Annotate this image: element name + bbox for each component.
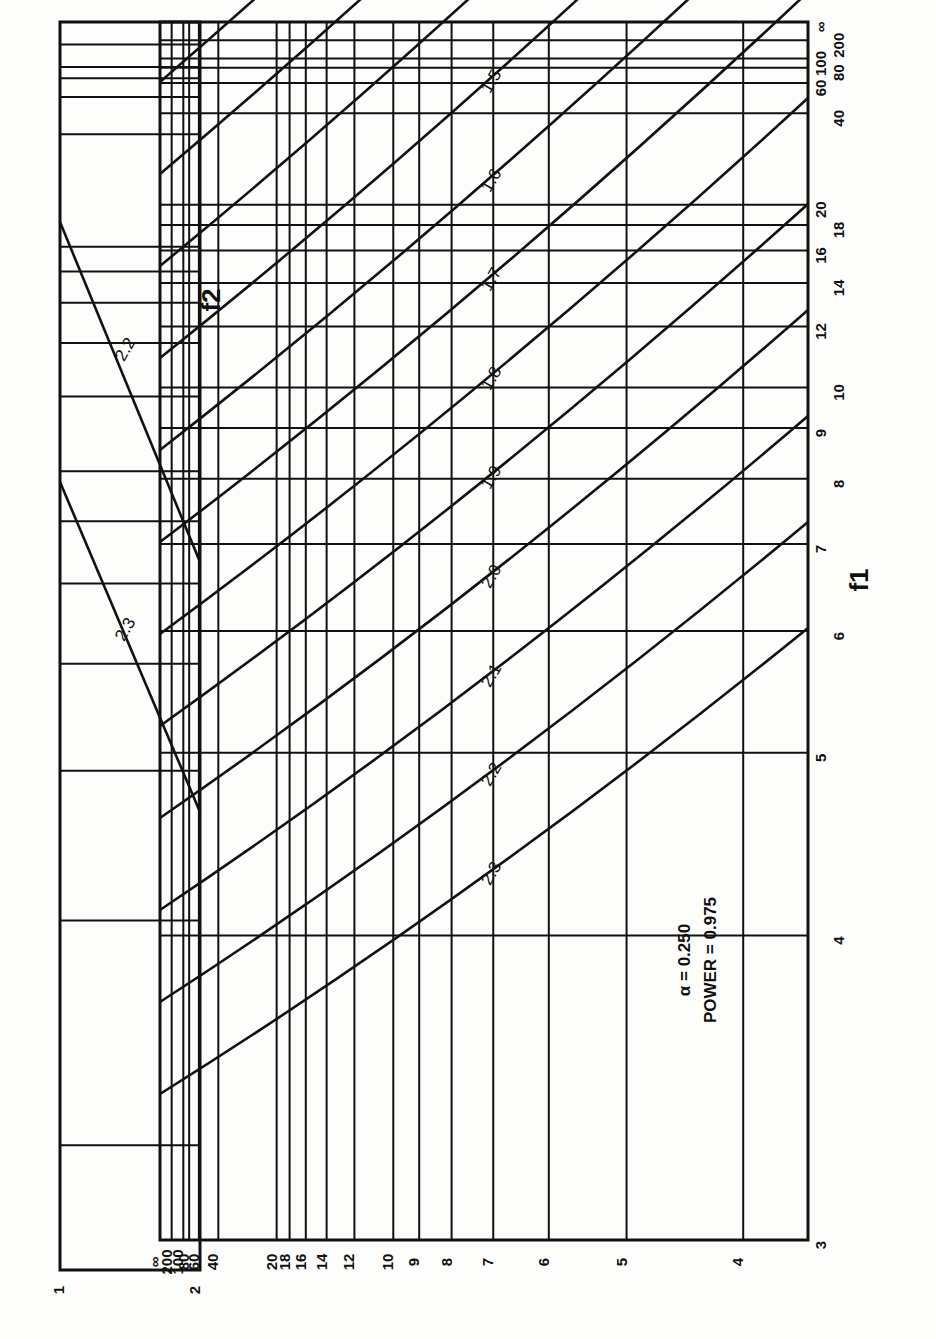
power-chart: 3456789101214161820406080100200∞45678910… [0,0,936,1339]
f2-tick-label: ∞ [146,1256,163,1267]
f2-tick-label: 10 [379,1254,396,1271]
f1-tick-label: 100 [812,51,829,76]
f1-tick-label: 5 [812,754,829,762]
f1-tick-label: 10 [830,384,847,401]
phi-curve-2.1 [160,416,808,910]
f1-tick-label: 80 [830,64,847,81]
inset-curve-2.2 [60,222,200,562]
phi-curve-2.3 [160,628,808,1094]
f1-tick-label: 16 [812,247,829,264]
f1-tick-label: 18 [830,222,847,239]
f1-tick-label: 20 [812,201,829,218]
f1-tick-label: 9 [812,429,829,437]
legend-alpha: α = 0.250 [675,924,694,996]
f1-tick-label: 6 [830,632,847,640]
f1-tick-label: 4 [830,936,847,945]
f2-tick-label: 7 [479,1258,496,1266]
f1-tick-label: 3 [812,1241,829,1249]
inset-f1-tick-label: 1 [50,1286,67,1294]
grid-lines [160,22,808,1240]
f2-tick-label: 40 [204,1254,221,1271]
inset-f1-tick-label: 2 [186,1286,203,1294]
f2-tick-label: 20 [263,1254,280,1271]
f1-axis-label: f1 [844,568,874,591]
f2-tick-label: 4 [729,1257,746,1266]
f1-tick-label: 200 [830,33,847,58]
f1-tick-label: 40 [830,110,847,127]
f2-tick-label: 16 [292,1254,309,1271]
f2-tick-label: 8 [438,1258,455,1266]
legend-power: POWER = 0.975 [701,897,720,1023]
f1-tick-label: 7 [812,545,829,553]
f2-tick-label: 12 [340,1254,357,1271]
f2-tick-label: 9 [405,1258,422,1266]
f1-tick-label: ∞ [812,21,829,32]
f2-tick-label: 6 [535,1258,552,1266]
inset-curve-2.3 [60,482,200,812]
f1-tick-label: 8 [830,480,847,488]
f1-tick-label: 12 [812,323,829,340]
inset-curve-label: 2.3 [111,614,139,644]
f2-tick-label: 5 [613,1258,630,1266]
f1-tick-label: 60 [812,80,829,97]
phi-curve-label: 1.5 [477,66,505,96]
f1-tick-label: 14 [830,279,847,296]
f2-tick-label: 14 [313,1253,330,1270]
